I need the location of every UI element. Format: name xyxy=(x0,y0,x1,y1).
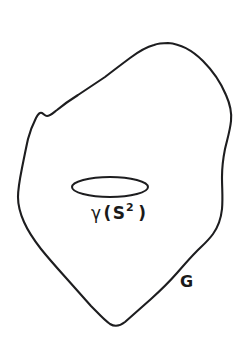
paren-close-symbol: ) xyxy=(134,203,146,223)
gamma-symbol: γ xyxy=(91,203,104,223)
figure-svg xyxy=(0,0,244,340)
region-outline-path xyxy=(18,43,231,326)
figure-canvas: γ(S2) G xyxy=(0,0,244,340)
sphere-symbol: S xyxy=(113,203,126,223)
gamma-s2-label: γ(S2) xyxy=(91,203,147,222)
gamma-s2-loop xyxy=(72,177,148,197)
region-g-label: G xyxy=(180,274,194,290)
paren-open-symbol: ( xyxy=(104,203,113,223)
exponent-two-symbol: 2 xyxy=(126,201,135,214)
